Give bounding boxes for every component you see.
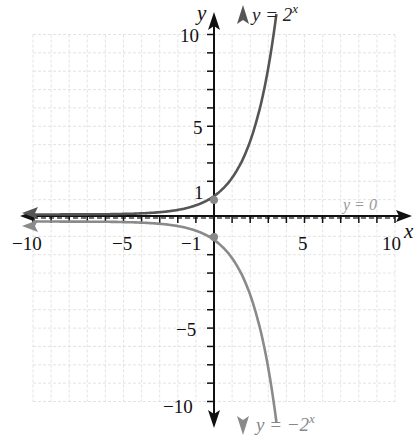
point-0-1 [210, 196, 218, 204]
y-tick-neg5: −5 [176, 319, 196, 340]
x-tick-10: 10 [382, 233, 401, 254]
curve-top-arrow-up [237, 5, 249, 24]
curve-bottom-arrow-left [22, 220, 38, 232]
curve-2-pow-x [33, 14, 276, 215]
y-tick-neg1: −1 [181, 233, 201, 254]
y-axis [207, 12, 220, 428]
x-tick-5: 5 [298, 233, 308, 254]
y-axis-label: y [195, 1, 207, 25]
y-tick-1: 1 [194, 182, 204, 203]
asymptote-label: y = 0 [341, 196, 377, 214]
x-axis-label: x [403, 219, 414, 243]
y-tick-5: 5 [193, 117, 203, 138]
curve-bottom-label: y = −2x [254, 411, 315, 435]
point-0-neg1 [210, 233, 218, 241]
curve-bottom-arrow-down [237, 416, 249, 435]
y-tick-neg10: −10 [163, 396, 193, 417]
x-tick-neg5: −5 [112, 233, 132, 254]
curve-top-label: y = 2x [250, 1, 298, 25]
y-tick-10: 10 [180, 25, 199, 46]
chart-canvas: y x y = 2x y = −2x y = 0 −10 −5 5 10 10 … [0, 0, 417, 441]
x-tick-neg10: −10 [12, 233, 42, 254]
